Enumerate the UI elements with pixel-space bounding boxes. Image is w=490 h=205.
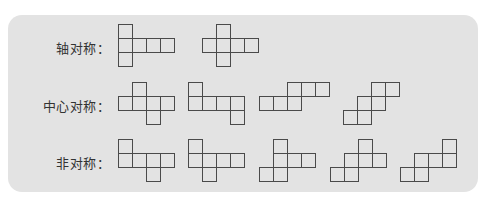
net-square	[301, 82, 316, 97]
net-square	[160, 38, 175, 53]
net-square	[385, 82, 400, 97]
net-square	[442, 153, 457, 168]
net-square	[188, 96, 203, 111]
net-square	[118, 96, 133, 111]
net-square	[146, 110, 161, 125]
net-square	[202, 96, 217, 111]
net-square	[428, 153, 443, 168]
net-square	[118, 38, 133, 53]
net-square	[358, 153, 373, 168]
net-square	[146, 38, 161, 53]
net-square	[188, 139, 203, 154]
label-axis-symmetric: 轴对称：	[0, 38, 110, 57]
net-square	[118, 139, 133, 154]
net-square	[301, 153, 316, 168]
net-square	[216, 153, 231, 168]
net-square	[146, 96, 161, 111]
net-square	[216, 38, 231, 53]
net-square	[118, 24, 133, 39]
net-square	[132, 38, 147, 53]
net-square	[259, 96, 274, 111]
net-square	[414, 167, 429, 182]
net-square	[315, 82, 330, 97]
net-square	[371, 82, 386, 97]
net-square	[230, 38, 245, 53]
net-square	[273, 167, 288, 182]
net-square	[259, 167, 274, 182]
net-square	[216, 96, 231, 111]
net-square	[273, 139, 288, 154]
net-square	[400, 167, 415, 182]
net-square	[146, 167, 161, 182]
net-square	[230, 110, 245, 125]
net-square	[287, 153, 302, 168]
net-square	[442, 139, 457, 154]
net-square	[343, 110, 358, 125]
net-square	[344, 153, 359, 168]
net-square	[414, 153, 429, 168]
net-square	[358, 139, 373, 154]
net-square	[372, 153, 387, 168]
net-square	[230, 96, 245, 111]
net-square	[330, 167, 345, 182]
label-asymmetric: 非对称：	[0, 153, 110, 172]
net-square	[202, 167, 217, 182]
net-square	[160, 96, 175, 111]
net-square	[160, 153, 175, 168]
net-square	[188, 153, 203, 168]
net-square	[216, 24, 231, 39]
net-square	[188, 82, 203, 97]
net-square	[132, 153, 147, 168]
net-square	[244, 38, 259, 53]
net-square	[287, 96, 302, 111]
net-square	[230, 153, 245, 168]
net-square	[202, 38, 217, 53]
net-square	[357, 96, 372, 111]
net-square	[371, 96, 386, 111]
net-square	[146, 153, 161, 168]
label-center-symmetric: 中心对称：	[0, 96, 110, 115]
net-square	[118, 153, 133, 168]
net-square	[273, 96, 288, 111]
net-square	[132, 96, 147, 111]
net-square	[132, 82, 147, 97]
net-square	[273, 153, 288, 168]
net-square	[344, 167, 359, 182]
net-square	[287, 82, 302, 97]
net-square	[202, 153, 217, 168]
net-square	[357, 110, 372, 125]
net-square	[118, 52, 133, 67]
net-square	[216, 52, 231, 67]
